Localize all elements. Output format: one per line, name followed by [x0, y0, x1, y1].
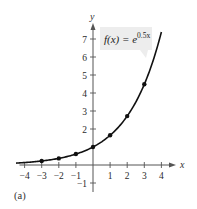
data-point	[91, 145, 95, 149]
data-point	[108, 133, 112, 137]
y-tick-label: 2	[82, 125, 87, 135]
x-axis-label: x	[179, 159, 185, 170]
y-tick-label: 7	[82, 35, 87, 45]
data-point	[142, 82, 146, 86]
figure-caption: (a)	[14, 190, 26, 201]
exponential-chart: xy−4−3−2−11234−1234567 f(x) = e0.5x	[0, 0, 197, 209]
x-tick-label: −4	[20, 171, 30, 181]
y-axis-label: y	[89, 11, 95, 22]
y-tick-label: −1	[77, 179, 87, 189]
x-tick-label: 3	[142, 171, 147, 181]
data-point	[57, 156, 61, 160]
function-label-box: f(x) = e0.5x	[100, 27, 152, 58]
y-tick-label: 5	[82, 71, 87, 81]
y-tick-label: 6	[82, 53, 87, 63]
x-tick-label: 1	[108, 171, 113, 181]
x-tick-label: −3	[37, 171, 47, 181]
data-point	[74, 152, 78, 156]
y-tick-label: 3	[82, 107, 87, 117]
function-curve	[16, 32, 161, 163]
x-tick-label: −2	[54, 171, 64, 181]
data-point	[125, 114, 129, 118]
x-tick-label: 4	[159, 171, 164, 181]
y-tick-label: 4	[82, 89, 87, 99]
x-axis-arrow-icon	[169, 163, 176, 168]
x-tick-label: 2	[125, 171, 130, 181]
data-point	[40, 159, 44, 163]
y-axis-arrow-icon	[91, 23, 96, 30]
